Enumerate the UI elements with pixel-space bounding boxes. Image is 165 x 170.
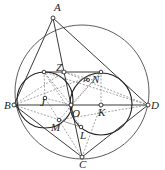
- label-n: N: [91, 73, 100, 85]
- geometry-diagram: A B D C O K J Z M L N P: [0, 0, 165, 170]
- point-tangent-right: [99, 70, 103, 74]
- point-a: [51, 16, 55, 20]
- point-z: [62, 70, 66, 74]
- label-z: Z: [56, 61, 63, 73]
- label-a: A: [53, 1, 61, 13]
- label-p: P: [82, 76, 88, 84]
- label-b: B: [4, 99, 11, 111]
- label-o: O: [72, 107, 80, 119]
- label-k: K: [97, 106, 106, 118]
- point-b: [12, 103, 16, 107]
- label-l: L: [79, 129, 86, 141]
- dashed-lines: [14, 72, 148, 157]
- label-d: D: [150, 99, 159, 111]
- label-c: C: [79, 158, 87, 170]
- point-tangent-left: [42, 70, 46, 74]
- point-d: [146, 103, 150, 107]
- label-m: M: [50, 121, 61, 133]
- diagram-canvas: A B D C O K J Z M L N P: [0, 0, 165, 170]
